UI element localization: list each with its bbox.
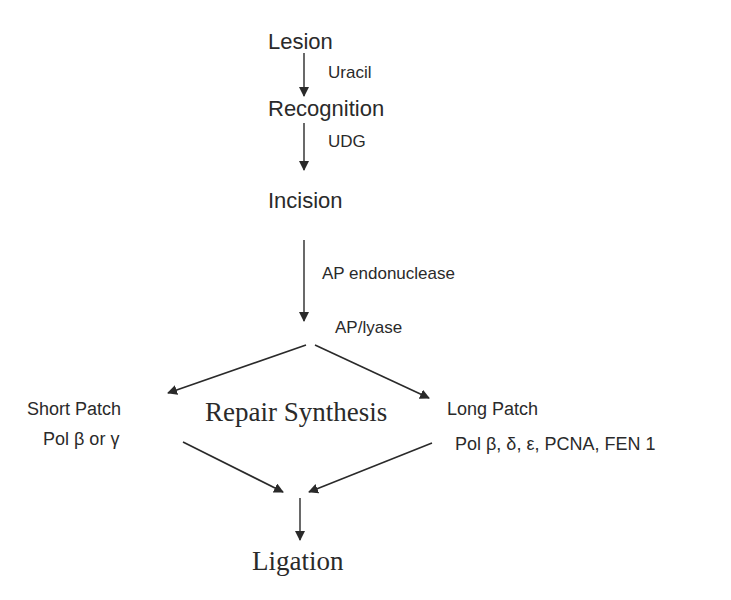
- step-repair-synthesis: Repair Synthesis: [205, 399, 387, 426]
- branch-long-patch-enzymes: Pol β, δ, ε, PCNA, FEN 1: [455, 435, 655, 453]
- arrow-short-patch-to-ligation: [183, 442, 283, 492]
- step-ligation: Ligation: [252, 548, 343, 575]
- edge-label-uracil: Uracil: [328, 64, 371, 81]
- edge-label-ap-lyase: AP/lyase: [335, 319, 402, 336]
- ber-pathway-diagram: Lesion Uracil Recognition UDG Incision A…: [0, 0, 731, 600]
- edge-label-udg: UDG: [328, 133, 366, 150]
- edge-label-ap-endonuclease: AP endonuclease: [322, 265, 455, 282]
- arrows-layer: [0, 0, 731, 600]
- branch-short-patch-enzymes: Pol β or γ: [43, 430, 119, 448]
- step-lesion: Lesion: [268, 31, 333, 53]
- branch-long-patch-label: Long Patch: [447, 400, 538, 418]
- arrow-branch-to-short-patch: [168, 345, 306, 393]
- step-recognition: Recognition: [268, 98, 384, 120]
- step-incision: Incision: [268, 190, 343, 212]
- branch-short-patch-label: Short Patch: [27, 400, 121, 418]
- arrow-branch-to-long-patch: [315, 345, 429, 398]
- arrow-long-patch-to-ligation: [309, 443, 432, 492]
